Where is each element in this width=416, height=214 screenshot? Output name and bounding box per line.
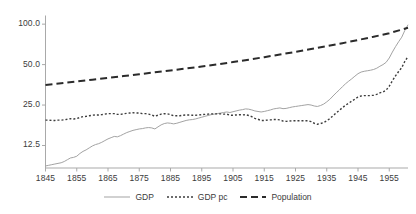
x-axis-tick-label: 1855 — [61, 173, 93, 183]
y-axis-tick-label: 12.5 — [2, 139, 40, 149]
series-line-population — [46, 28, 409, 85]
legend-swatch-dashed — [240, 194, 266, 200]
x-axis-tick-label: 1945 — [342, 173, 374, 183]
x-axis-tick-label: 1895 — [186, 173, 218, 183]
legend-swatch-dotted — [167, 194, 193, 200]
x-axis-tick-label: 1885 — [155, 173, 187, 183]
legend-swatch-solid — [104, 194, 130, 200]
series-line-gdp — [46, 25, 409, 166]
chart-series-layer — [46, 25, 409, 166]
legend-item-gdp[interactable]: GDP — [104, 192, 153, 202]
series-line-gdp-pc — [46, 56, 409, 124]
legend-item-population[interactable]: Population — [240, 192, 311, 202]
legend-label: Population — [271, 192, 311, 202]
x-axis-tick-label: 1955 — [373, 173, 405, 183]
y-axis-tick-label: 50.0 — [2, 59, 40, 69]
x-axis-tick-label: 1905 — [217, 173, 249, 183]
legend-label: GDP pc — [198, 192, 228, 202]
chart-axes — [42, 16, 408, 172]
x-axis-tick-label: 1875 — [123, 173, 155, 183]
x-axis-tick-label: 1935 — [311, 173, 343, 183]
x-axis-tick-label: 1845 — [30, 173, 62, 183]
chart-legend: GDPGDP pcPopulation — [0, 188, 416, 206]
x-axis-tick-label: 1865 — [92, 173, 124, 183]
x-axis-tick-label: 1925 — [280, 173, 312, 183]
legend-label: GDP — [135, 192, 153, 202]
legend-item-gdp-pc[interactable]: GDP pc — [167, 192, 228, 202]
chart-container: 100.050.025.012.5 1845185518651875188518… — [0, 0, 416, 214]
y-axis-tick-label: 100.0 — [2, 18, 40, 28]
x-axis-tick-label: 1915 — [248, 173, 280, 183]
y-axis-tick-label: 25.0 — [2, 99, 40, 109]
